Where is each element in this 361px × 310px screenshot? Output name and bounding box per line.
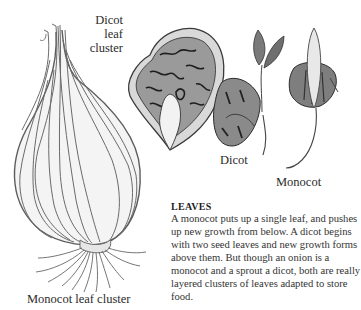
caption: LEAVES A monocot puts up a single leaf, … [171, 201, 361, 303]
caption-body: A monocot puts up a single leaf, and pus… [171, 212, 361, 303]
caption-title: LEAVES [171, 201, 361, 212]
monocot-sprout-icon [286, 28, 338, 168]
label-dicot-leaf-cluster: Dicot leaf cluster [81, 13, 123, 55]
label-monocot-leaf-cluster: Monocot leaf cluster [27, 292, 130, 306]
cabbage-cross-section-icon [129, 29, 224, 150]
label-dicot: Dicot [220, 153, 248, 167]
onion-bulb-icon [14, 24, 146, 292]
label-dicot-leaf-cluster-line1: Dicot leaf [81, 13, 123, 41]
dicot-sprout-icon [214, 30, 284, 155]
label-dicot-leaf-cluster-line2: cluster [81, 41, 123, 55]
label-monocot: Monocot [276, 175, 321, 189]
